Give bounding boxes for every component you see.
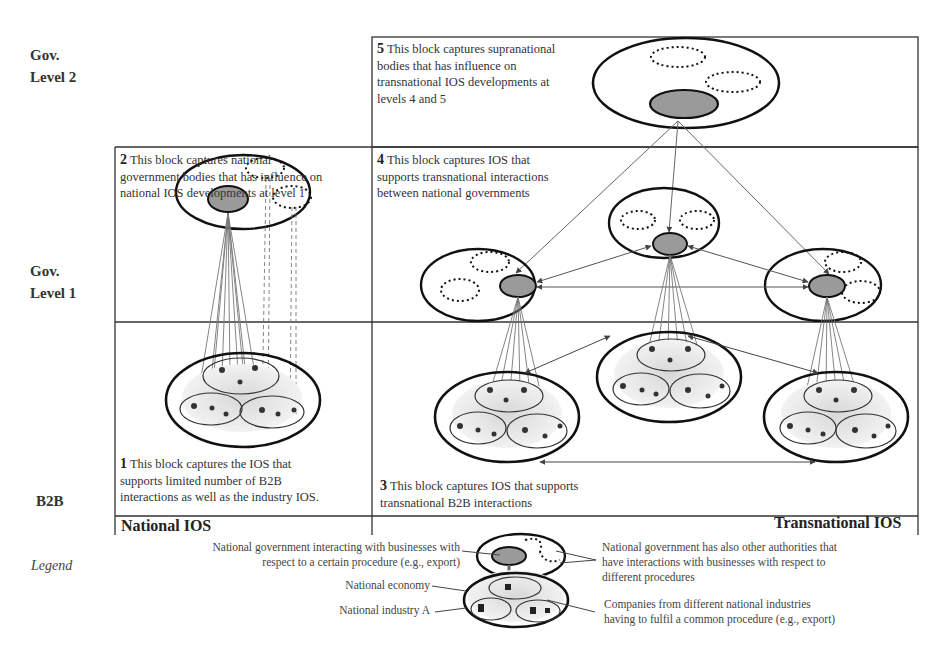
row-label-line: Level 1 (30, 282, 76, 304)
block-3-description: 3 This block captures IOS that supports … (380, 478, 640, 511)
block-number: 1 (120, 456, 127, 471)
block-line: bodies that has influence on (377, 59, 517, 73)
block-line: levels 4 and 5 (377, 92, 446, 106)
economy-middle (597, 332, 741, 422)
legend-line: respect to a certain procedure (e.g., ex… (150, 555, 460, 570)
block-line: This block captures IOS that (387, 153, 530, 167)
legend-line: National government interacting with bus… (150, 540, 460, 555)
legend-line: having to fulfil a common procedure (e.g… (604, 612, 924, 627)
national-economy-block1 (166, 353, 320, 447)
row-label-gov-level-1: Gov. Level 1 (30, 260, 76, 304)
block-number: 5 (377, 41, 384, 56)
legend-line: have interactions with businesses with r… (602, 555, 922, 570)
block-line: This block captures supranational (387, 42, 555, 56)
block-line: This block captures the IOS that (130, 457, 291, 471)
economy-left (435, 372, 579, 462)
block-5-description: 5 This block captures supranational bodi… (377, 41, 617, 107)
government-right (765, 249, 881, 321)
legend-national-industry: National industry A (300, 603, 430, 618)
row-label-gov-level-2: Gov. Level 2 (30, 44, 76, 88)
block-number: 2 (120, 152, 127, 167)
row-label-b2b: B2B (36, 490, 64, 512)
legend-companies: Companies from different national indust… (604, 597, 924, 627)
row-label-line: Gov. (30, 44, 76, 66)
legend-other-authorities: National government has also other autho… (602, 540, 922, 585)
block-line: transnational IOS developments at (377, 75, 550, 89)
legend-national-economy: National economy (300, 578, 430, 593)
government-left (421, 249, 536, 321)
block-line: government bodies that has influence on (120, 170, 322, 184)
block-line: interactions as well as the industry IOS… (120, 490, 319, 504)
economy-right (764, 372, 908, 462)
block-line: between national governments (377, 186, 530, 200)
block-line: transnational B2B interactions (380, 496, 532, 510)
block-line: supports limited number of B2B (120, 474, 282, 488)
legend-line: different procedures (602, 570, 922, 585)
block-4-description: 4 This block captures IOS that supports … (377, 152, 597, 202)
government-middle (609, 188, 719, 258)
legend-line: National government has also other autho… (602, 540, 922, 555)
block-line: This block captures national (130, 153, 271, 167)
block-1-description: 1 This block captures the IOS that suppo… (120, 456, 375, 506)
legend-line: Companies from different national indust… (604, 597, 924, 612)
row-label-line: Gov. (30, 260, 76, 282)
legend-gov-interacting: National government interacting with bus… (150, 540, 460, 570)
block-number: 4 (377, 152, 384, 167)
block-2-description: 2 This block captures national governmen… (120, 152, 375, 202)
legend-title: Legend (31, 558, 72, 574)
row-label-line: Level 2 (30, 66, 76, 88)
national-ios-label: National IOS (121, 517, 211, 535)
block-number: 3 (380, 478, 387, 493)
supranational-body (593, 38, 779, 128)
block-line: supports transnational interactions (377, 170, 549, 184)
block-line: This block captures IOS that supports (390, 479, 579, 493)
block-line: national IOS developments at level 1 (120, 186, 305, 200)
transnational-ios-label: Transnational IOS (774, 514, 901, 532)
